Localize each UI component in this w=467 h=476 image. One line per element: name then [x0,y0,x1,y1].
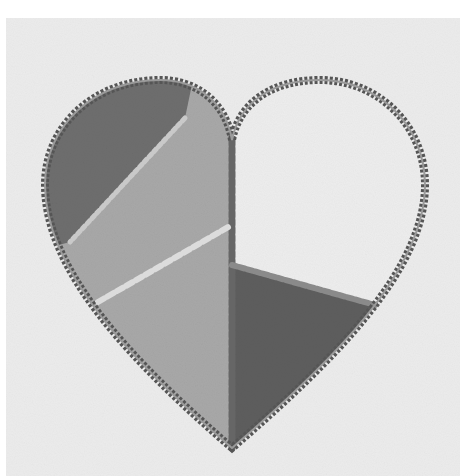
photo-canvas: patchwork heart [0,0,467,476]
heart-illustration [0,0,467,476]
